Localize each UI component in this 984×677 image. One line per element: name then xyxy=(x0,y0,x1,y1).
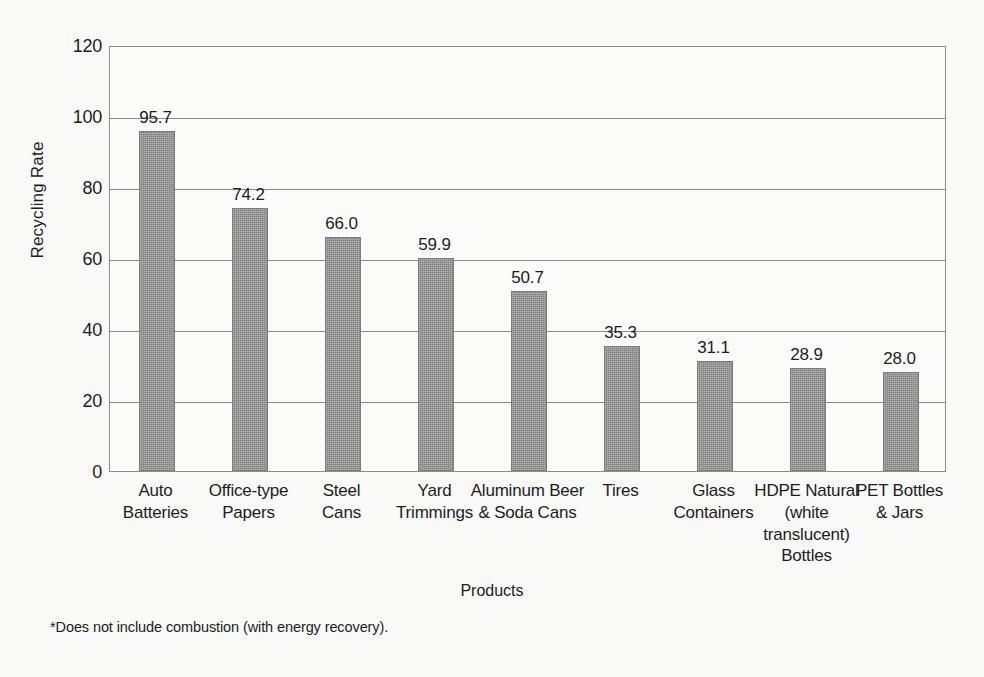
plot-area xyxy=(109,46,946,472)
y-axis-tick-label: 40 xyxy=(42,320,102,341)
bar xyxy=(883,372,919,471)
x-axis-tick-labels: AutoBatteriesOffice-typePapersSteelCansY… xyxy=(109,480,946,575)
bar xyxy=(232,208,268,471)
bar xyxy=(139,131,175,471)
bar xyxy=(604,346,640,471)
chart-figure: 020406080100120 Recycling Rate 95.774.26… xyxy=(0,0,984,677)
bar-value-label: 35.3 xyxy=(576,323,666,343)
bar xyxy=(325,237,361,471)
y-axis-tick-label: 120 xyxy=(42,36,102,57)
x-axis-tick-label-line: translucent) xyxy=(747,524,867,546)
y-axis-tick-label: 0 xyxy=(42,462,102,483)
bar xyxy=(418,258,454,471)
bar xyxy=(697,361,733,471)
bar-value-label: 28.9 xyxy=(762,345,852,365)
x-axis-title: Products xyxy=(0,582,984,600)
x-axis-tick-label-line: Bottles xyxy=(747,545,867,567)
bar-value-label: 95.7 xyxy=(111,108,201,128)
bar-value-label: 74.2 xyxy=(204,185,294,205)
y-axis-tick-label: 20 xyxy=(42,391,102,412)
y-axis-tick-label: 80 xyxy=(42,178,102,199)
chart-footnote: *Does not include combustion (with energ… xyxy=(50,619,388,635)
bar-value-label: 66.0 xyxy=(297,214,387,234)
x-axis-tick-label-line: & Soda Cans xyxy=(468,502,588,524)
y-axis-tick-label: 100 xyxy=(42,107,102,128)
bar-value-label: 59.9 xyxy=(390,235,480,255)
bar-value-label: 28.0 xyxy=(855,349,945,369)
x-axis-tick-label-line: PET Bottles xyxy=(840,480,960,502)
x-axis-tick-label-line: & Jars xyxy=(840,502,960,524)
bar xyxy=(790,368,826,471)
y-axis-title: Recycling Rate xyxy=(28,125,48,275)
bar-value-label: 31.1 xyxy=(669,338,759,358)
bar xyxy=(511,291,547,471)
x-axis-tick-label: PET Bottles& Jars xyxy=(840,480,960,524)
y-axis-tick-label: 60 xyxy=(42,249,102,270)
bar-series xyxy=(110,47,945,471)
bar-value-label: 50.7 xyxy=(483,268,573,288)
